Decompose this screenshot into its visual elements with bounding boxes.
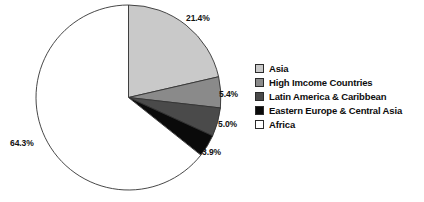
slice-label-latin-america-caribbean: 5.0% bbox=[218, 119, 237, 129]
legend-item[interactable]: High Imcome Countries bbox=[255, 75, 423, 89]
slice-label-eastern-europe-central-asia: 3.9% bbox=[202, 147, 221, 157]
slice-label-africa: 64.3% bbox=[10, 138, 34, 148]
legend-item-label: High Imcome Countries bbox=[269, 77, 372, 88]
pie-chart-figure: 21.4% 5.4% 5.0% 3.9% 64.3% AsiaHigh Imco… bbox=[0, 0, 424, 202]
legend-item-label: Latin America & Caribbean bbox=[269, 91, 386, 102]
legend-item-label: Asia bbox=[269, 63, 288, 74]
legend-item[interactable]: Latin America & Caribbean bbox=[255, 89, 423, 103]
legend-swatch-icon bbox=[255, 120, 264, 129]
legend-item[interactable]: Asia bbox=[255, 61, 423, 75]
legend-swatch-icon bbox=[255, 64, 264, 73]
legend-swatch-icon bbox=[255, 78, 264, 87]
legend-item[interactable]: Eastern Europe & Central Asia bbox=[255, 103, 423, 117]
slice-label-high-income-countries: 5.4% bbox=[219, 89, 238, 99]
legend-swatch-icon bbox=[255, 92, 264, 101]
legend-item-label: Eastern Europe & Central Asia bbox=[269, 105, 402, 116]
legend-item-label: Africa bbox=[269, 119, 295, 130]
legend-swatch-icon bbox=[255, 106, 264, 115]
slice-label-asia: 21.4% bbox=[186, 13, 210, 23]
pie-slice-group bbox=[36, 5, 221, 190]
legend-item[interactable]: Africa bbox=[255, 117, 423, 131]
chart-legend: AsiaHigh Imcome CountriesLatin America &… bbox=[255, 61, 423, 131]
